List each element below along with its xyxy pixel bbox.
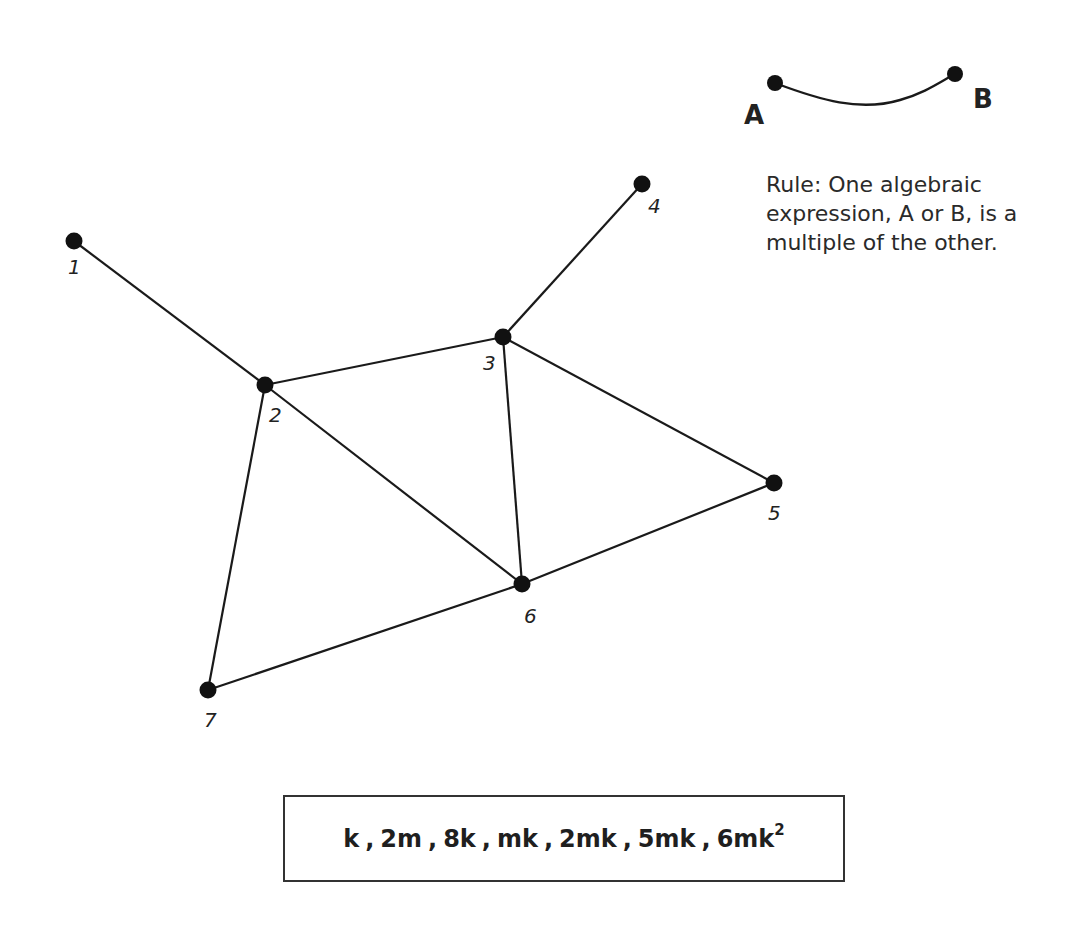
expression-separator: ,	[623, 825, 632, 853]
expression-separator: ,	[428, 825, 437, 853]
node-label-3: 3	[483, 351, 496, 375]
expression-separator: ,	[365, 825, 374, 853]
legend-edge	[767, 66, 963, 105]
edge-6-7	[208, 584, 522, 690]
expression-item: 2mk	[559, 825, 617, 853]
legend-label-a: A	[744, 100, 764, 130]
expression-separator: ,	[482, 825, 491, 853]
edge-3-5	[503, 337, 774, 483]
legend-node-a	[767, 75, 783, 91]
expression-separator: ,	[702, 825, 711, 853]
expression-separator: ,	[544, 825, 553, 853]
graph-edges	[74, 184, 774, 690]
node-5	[766, 475, 783, 492]
node-7	[200, 682, 217, 699]
node-4	[634, 176, 651, 193]
expression-item: 6mk2	[717, 824, 785, 853]
node-label-6: 6	[524, 604, 537, 628]
edge-2-6	[265, 385, 522, 584]
expression-item: 2m	[380, 825, 422, 853]
expression-exponent: 2	[774, 821, 784, 839]
node-6	[514, 576, 531, 593]
node-label-1: 1	[68, 255, 81, 279]
node-label-4: 4	[648, 194, 661, 218]
expression-item: 8k	[443, 825, 476, 853]
node-3	[495, 329, 512, 346]
node-label-7: 7	[204, 708, 217, 732]
expression-item: 5mk	[638, 825, 696, 853]
edge-3-4	[503, 184, 642, 337]
node-label-2: 2	[269, 403, 282, 427]
expression-item: mk	[497, 825, 538, 853]
node-2	[257, 377, 274, 394]
expressions-box: k,2m,8k,mk,2mk,5mk,6mk2	[283, 795, 845, 882]
graph-nodes	[66, 176, 783, 699]
edge-3-6	[503, 337, 522, 584]
edge-5-6	[522, 483, 774, 584]
edge-2-7	[208, 385, 265, 690]
rule-text: Rule: One algebraic expression, A or B, …	[766, 170, 1086, 257]
node-1	[66, 233, 83, 250]
legend-label-b: B	[973, 84, 993, 114]
edge-2-3	[265, 337, 503, 385]
edge-1-2	[74, 241, 265, 385]
node-label-5: 5	[768, 501, 781, 525]
expression-item: k	[343, 825, 359, 853]
legend-node-b	[947, 66, 963, 82]
